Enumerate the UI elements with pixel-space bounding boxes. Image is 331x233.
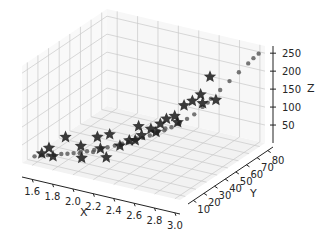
circle-marker (105, 145, 109, 149)
x-tick-label: 1.6 (24, 186, 40, 197)
circle-marker (218, 88, 222, 92)
x-tick-label: 2.4 (106, 205, 122, 216)
x-tick-label: 3.0 (167, 220, 183, 231)
circle-marker (237, 70, 241, 74)
circle-marker (192, 112, 196, 116)
z-tick-label: 250 (282, 48, 301, 59)
circle-marker (71, 151, 75, 155)
x-axis-label: X (80, 206, 88, 219)
y-tick (225, 179, 228, 181)
z-tick-label: 100 (282, 102, 301, 113)
circle-marker (65, 152, 69, 156)
circle-marker (227, 79, 231, 83)
z-tick-label: 150 (282, 84, 301, 95)
z-tick-label: 50 (282, 120, 295, 131)
y-tick-label: 80 (272, 155, 285, 166)
circle-marker (91, 150, 95, 154)
x-tick-label: 2.8 (147, 215, 163, 226)
circle-marker (32, 154, 36, 158)
y-tick (268, 151, 271, 153)
circle-marker (169, 125, 173, 129)
y-tick (257, 158, 260, 160)
circle-marker (85, 149, 89, 153)
circle-marker (256, 51, 260, 55)
x-tick-label: 2.2 (85, 201, 101, 212)
y-axis-label: Y (249, 187, 257, 200)
axes-panes (22, 9, 265, 200)
z-axis-label: Z (307, 82, 315, 95)
x-tick-label: 1.8 (45, 191, 61, 202)
circle-marker (251, 56, 255, 60)
circle-marker (185, 117, 189, 121)
y-tick (204, 193, 207, 195)
scatter-3d-chart: 1.61.82.02.22.42.62.83.01020304050607080… (0, 0, 331, 233)
y-tick (236, 172, 239, 174)
z-tick-label: 200 (282, 66, 301, 77)
circle-marker (246, 61, 250, 65)
y-tick (246, 165, 249, 167)
y-tick (215, 186, 218, 188)
circle-marker (59, 152, 63, 156)
y-tick (193, 200, 196, 202)
x-tick-label: 2.6 (126, 210, 142, 221)
circle-marker (148, 133, 152, 137)
x-tick-label: 2.0 (65, 196, 81, 207)
